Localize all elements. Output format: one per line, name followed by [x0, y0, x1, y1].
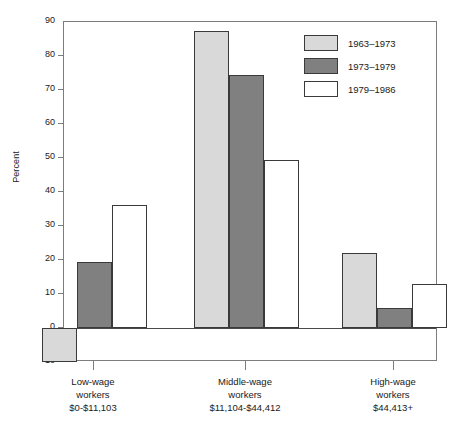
bar-chart: Percent -100102030405060708090 Low-wagew… — [0, 0, 455, 431]
x-axis-tick-label-line: High-wage — [313, 375, 455, 388]
legend-label-1973-1979: 1973–1979 — [348, 61, 396, 72]
bar — [77, 262, 112, 328]
bar — [42, 328, 77, 362]
y-axis-tick-label: 40 — [22, 186, 55, 195]
x-axis-tick-label-line: workers — [313, 388, 455, 401]
bar — [194, 31, 229, 329]
bar — [229, 75, 264, 328]
y-axis-tick-label: 10 — [22, 288, 55, 297]
x-axis-tick-label: Low-wageworkers$0-$11,103 — [13, 375, 173, 414]
bar — [377, 308, 412, 328]
y-axis-tick-label: 50 — [22, 152, 55, 161]
x-axis-tick-mark — [393, 361, 394, 370]
y-axis-tick-label: 20 — [22, 254, 55, 263]
legend-swatch-1973-1979 — [304, 58, 338, 74]
x-axis-tick-label-line: $11,104-$44,412 — [165, 401, 325, 414]
plot-area — [63, 21, 437, 361]
y-axis-tick-label: 30 — [22, 220, 55, 229]
plot-inner — [64, 22, 436, 360]
x-axis-tick-mark — [245, 361, 246, 370]
y-axis-tick-label: 90 — [22, 16, 55, 25]
y-axis-tick-label: 70 — [22, 84, 55, 93]
legend-label-1963-1973: 1963–1973 — [348, 38, 396, 49]
x-axis-tick-label-line: workers — [13, 388, 173, 401]
x-axis-tick-label: High-wageworkers$44,413+ — [313, 375, 455, 414]
x-axis-tick-label-line: $44,413+ — [313, 401, 455, 414]
x-axis-tick-label-line: $0-$11,103 — [13, 401, 173, 414]
y-axis-tick-label: 60 — [22, 118, 55, 127]
y-axis-tick-label: 80 — [22, 50, 55, 59]
x-axis-tick-label: Middle-wageworkers$11,104-$44,412 — [165, 375, 325, 414]
legend-swatch-1963-1973 — [304, 35, 338, 51]
y-axis-title: Percent — [11, 137, 21, 197]
x-axis-tick-label-line: Low-wage — [13, 375, 173, 388]
bar — [112, 205, 147, 328]
bar — [342, 253, 377, 328]
x-axis-tick-label-line: Middle-wage — [165, 375, 325, 388]
bar — [412, 284, 447, 328]
legend-label-1979-1986: 1979–1986 — [348, 84, 396, 95]
bar — [264, 160, 299, 328]
x-axis-tick-label-line: workers — [165, 388, 325, 401]
x-axis-tick-mark — [93, 361, 94, 370]
legend-swatch-1979-1986 — [304, 81, 338, 97]
